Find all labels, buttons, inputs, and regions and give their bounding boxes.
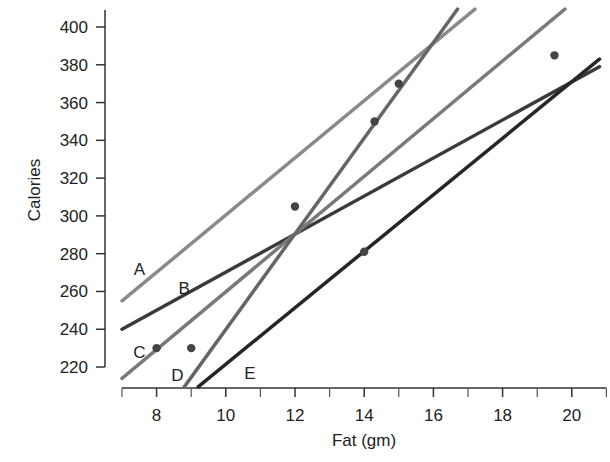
line-d [184, 9, 457, 387]
chart: 220240260280300320340360380400 810121416… [0, 0, 610, 462]
y-tick-label: 320 [60, 169, 88, 188]
y-tick-label: 260 [60, 282, 88, 301]
x-tick-label: 10 [216, 406, 235, 425]
x-axis: 8101214161820 [122, 388, 606, 425]
y-tick-label: 300 [60, 207, 88, 226]
data-point [187, 344, 195, 352]
y-tick-label: 340 [60, 131, 88, 150]
line-label-c: C [133, 343, 145, 362]
x-axis-label: Fat (gm) [332, 431, 396, 450]
x-tick-label: 14 [355, 406, 374, 425]
x-tick-label: 16 [424, 406, 443, 425]
line-label-a: A [134, 260, 146, 279]
line-label-e: E [244, 364, 255, 383]
y-axis-label: Calories [25, 159, 44, 221]
y-tick-label: 240 [60, 320, 88, 339]
y-tick-label: 360 [60, 94, 88, 113]
line-e [198, 59, 599, 387]
data-point [550, 51, 558, 59]
y-tick-label: 400 [60, 18, 88, 37]
line-a [122, 9, 475, 301]
fit-lines [122, 9, 599, 387]
x-tick-label: 12 [286, 406, 305, 425]
line-label-d: D [171, 366, 183, 385]
line-label-b: B [179, 279, 190, 298]
x-tick-label: 18 [493, 406, 512, 425]
y-axis: 220240260280300320340360380400 [60, 10, 105, 377]
data-point [395, 79, 403, 87]
x-tick-label: 20 [562, 406, 581, 425]
data-point [291, 202, 299, 210]
data-point [370, 117, 378, 125]
y-tick-label: 220 [60, 358, 88, 377]
data-point [152, 344, 160, 352]
y-tick-label: 380 [60, 56, 88, 75]
x-tick-label: 8 [152, 406, 161, 425]
data-point [360, 248, 368, 256]
line-c [122, 9, 565, 378]
y-tick-label: 280 [60, 245, 88, 264]
line-b [122, 67, 599, 330]
